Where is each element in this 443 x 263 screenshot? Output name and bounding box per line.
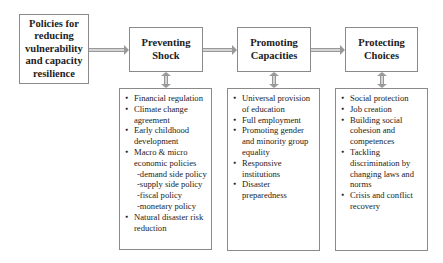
double-arrow-vertical-icon <box>380 76 384 84</box>
stage-title: Preventing Shock <box>130 37 202 62</box>
list-item: Full employment <box>233 115 316 126</box>
policy-list-promoting-capacities: Universal provision of education Full em… <box>227 88 320 251</box>
list-item: Natural disaster risk reduction <box>125 212 208 234</box>
policy-list-preventing-shock: Financial regulation Climate change agre… <box>119 88 212 250</box>
list-item: Financial regulation <box>125 93 208 104</box>
arrow-right-icon <box>89 48 124 52</box>
list-item: Social protection <box>341 93 424 104</box>
list-item: Promoting gender and minority group equa… <box>233 125 316 157</box>
root-policy-box: Policies for reducing vulnerability and … <box>19 14 89 84</box>
list-item: Responsive institutions <box>233 158 316 180</box>
policy-list-protecting-choices: Social protection Job creation Building … <box>335 88 428 251</box>
list-item: Job creation <box>341 104 424 115</box>
root-policy-label: Policies for reducing vulnerability and … <box>20 18 88 81</box>
sub-item: -monetary policy <box>134 201 208 212</box>
stage-box-promoting-capacities: Promoting Capacities <box>237 27 311 72</box>
list-item: Disaster preparedness <box>233 179 316 201</box>
stage-box-protecting-choices: Protecting Choices <box>345 27 418 72</box>
list-item: Early childhood development <box>125 125 208 147</box>
stage-title: Promoting Capacities <box>238 37 310 62</box>
list-item: Building social cohesion and competences <box>341 115 424 147</box>
arrow-right-icon <box>311 48 340 52</box>
stage-title: Protecting Choices <box>346 37 417 62</box>
list-item: Tackling discrimination by changing laws… <box>341 147 424 190</box>
stage-box-preventing-shock: Preventing Shock <box>129 27 203 72</box>
list-item: Macro & micro economic policies -demand … <box>125 147 208 212</box>
double-arrow-vertical-icon <box>272 76 276 84</box>
double-arrow-vertical-icon <box>164 76 168 84</box>
list-item: Crisis and conflict recovery <box>341 190 424 212</box>
arrow-right-icon <box>203 48 232 52</box>
list-item: Climate change agreement <box>125 104 208 126</box>
sub-item: -fiscal policy <box>134 190 208 201</box>
list-item: Universal provision of education <box>233 93 316 115</box>
sub-item: -supply side policy <box>134 179 208 190</box>
sub-item: -demand side policy <box>134 169 208 180</box>
